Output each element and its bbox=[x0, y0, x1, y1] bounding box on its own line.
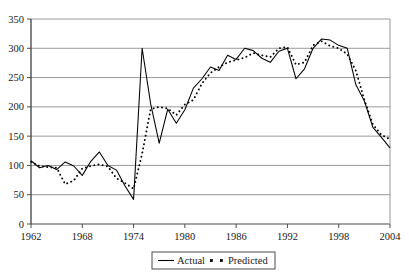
y-tick-label: 350 bbox=[8, 14, 24, 25]
x-tick-label: 1980 bbox=[174, 231, 195, 242]
x-tick-label: 1992 bbox=[277, 231, 298, 242]
y-tick-label: 50 bbox=[14, 189, 25, 200]
legend-swatch-predicted-dot-2 bbox=[220, 259, 223, 262]
x-tick-label: 2004 bbox=[380, 231, 402, 242]
legend-swatch-predicted-dot-1 bbox=[210, 259, 213, 262]
legend-label-actual: Actual bbox=[177, 255, 205, 266]
x-tick-label: 1962 bbox=[21, 231, 42, 242]
x-tick-label: 1986 bbox=[226, 231, 247, 242]
y-tick-label: 100 bbox=[8, 160, 24, 171]
x-tick-label: 1974 bbox=[123, 231, 145, 242]
chart-legend: ActualPredicted bbox=[152, 252, 275, 269]
x-tick-label: 1998 bbox=[328, 231, 349, 242]
x-tick-label: 1968 bbox=[72, 231, 93, 242]
y-tick-label: 0 bbox=[19, 219, 24, 230]
y-tick-label: 200 bbox=[8, 101, 24, 112]
line-chart: 050100150200250300350 196219681974198019… bbox=[0, 0, 409, 277]
legend-label-predicted: Predicted bbox=[228, 255, 268, 266]
chart-container: 050100150200250300350 196219681974198019… bbox=[0, 0, 409, 277]
y-tick-label: 150 bbox=[8, 131, 24, 142]
y-tick-label: 250 bbox=[8, 72, 24, 83]
y-tick-label: 300 bbox=[8, 43, 24, 54]
